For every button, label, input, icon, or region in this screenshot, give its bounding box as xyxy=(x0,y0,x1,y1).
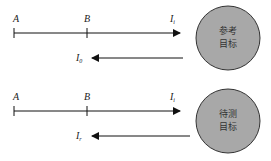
test-target-label: 待测 目标 xyxy=(208,108,248,134)
diagram: A B Ii I0 参考 目标 A B Ii Ir 待测 目标 xyxy=(0,0,271,161)
incident-subscript: i xyxy=(173,97,175,103)
reflected-intensity-label: I0 xyxy=(76,53,82,64)
incident-subscript: i xyxy=(173,19,175,25)
reference-target-label: 参考 目标 xyxy=(208,25,248,51)
point-a-label: A xyxy=(13,92,19,102)
reflected-intensity-label: Ir xyxy=(76,131,82,142)
reflected-subscript: 0 xyxy=(79,58,82,64)
target-label-line2: 目标 xyxy=(208,38,248,51)
target-label-line1: 参考 xyxy=(208,25,248,38)
reflected-subscript: r xyxy=(79,136,81,142)
incident-intensity-label: Ii xyxy=(170,14,175,25)
target-label-line2: 目标 xyxy=(208,121,248,134)
target-label-line1: 待测 xyxy=(208,108,248,121)
point-b-label: B xyxy=(84,92,90,102)
point-b-label: B xyxy=(84,14,90,24)
incident-intensity-label: Ii xyxy=(170,92,175,103)
point-a-label: A xyxy=(13,14,19,24)
